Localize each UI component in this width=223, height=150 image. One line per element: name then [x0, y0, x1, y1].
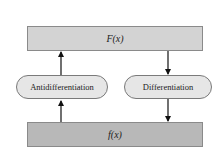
antidifferentiation-node: Antidifferentiation — [16, 75, 108, 99]
function-f-label: f(x) — [108, 129, 122, 140]
function-f-box: f(x) — [27, 122, 203, 147]
antidifferentiation-label: Antidifferentiation — [30, 82, 94, 92]
differentiation-node: Differentiation — [124, 75, 212, 99]
function-F-label: F(x) — [106, 33, 123, 44]
differentiation-label: Differentiation — [143, 82, 193, 92]
function-F-box: F(x) — [27, 26, 203, 51]
